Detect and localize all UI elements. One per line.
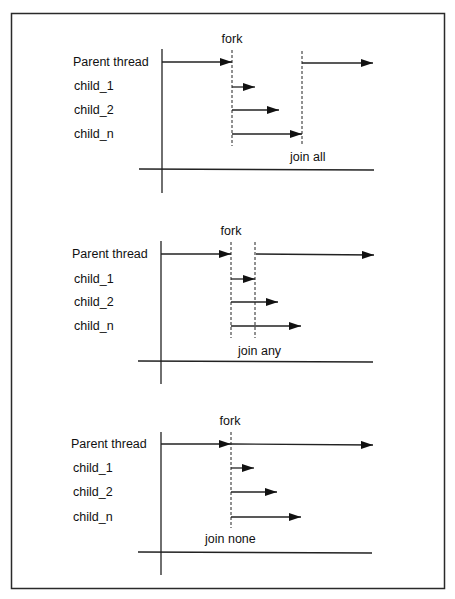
- panel-join-none: fork Parent thread child_1 child_2 child…: [71, 414, 373, 575]
- time-axis-horizontal: [138, 552, 372, 553]
- parent-resume-arrow: [231, 444, 373, 445]
- time-axis-horizontal: [139, 169, 374, 170]
- fork-label: fork: [222, 32, 244, 46]
- time-axis-horizontal: [138, 361, 373, 362]
- fork-join-diagram: fork Parent thread child_1 child_2 child…: [0, 0, 455, 599]
- parent-resume-arrow: [256, 254, 374, 255]
- panel-join-any: fork Parent thread child_1 child_2 child…: [72, 224, 374, 384]
- panel-join-all: fork Parent thread child_1 child_2 child…: [73, 32, 374, 193]
- row-label-child-2: child_2: [73, 485, 113, 499]
- row-label-child-n: child_n: [73, 510, 113, 524]
- fork-label: fork: [221, 224, 243, 238]
- row-label-parent: Parent thread: [72, 247, 148, 261]
- row-label-child-2: child_2: [74, 295, 114, 309]
- row-label-child-n: child_n: [74, 319, 114, 333]
- row-label-parent: Parent thread: [71, 437, 147, 451]
- join-label: join none: [204, 532, 256, 546]
- fork-label: fork: [220, 414, 242, 428]
- row-label-child-n: child_n: [74, 127, 114, 141]
- row-label-parent: Parent thread: [73, 55, 149, 69]
- row-label-child-1: child_1: [74, 272, 114, 286]
- join-label: join all: [289, 150, 325, 164]
- row-label-child-2: child_2: [74, 103, 114, 117]
- row-label-child-1: child_1: [74, 79, 114, 93]
- row-label-child-1: child_1: [73, 461, 113, 475]
- join-label: join any: [237, 344, 282, 358]
